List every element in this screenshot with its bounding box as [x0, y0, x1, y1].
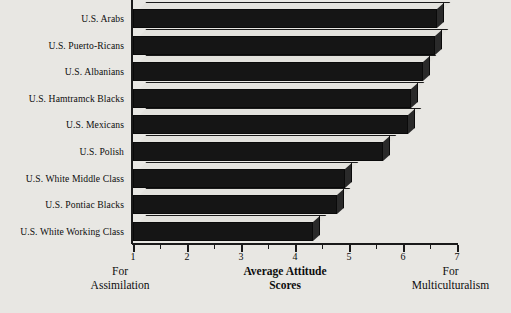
bar-front-face	[133, 169, 345, 188]
attitude-scores-bar-chart: U.S. ArabsU.S. Puerto-RicansU.S. Albania…	[0, 0, 511, 313]
axis-anchor-right-line1: For	[390, 264, 511, 278]
bar-side-face	[383, 136, 390, 161]
bar-side-face	[408, 109, 415, 134]
bar	[133, 2, 444, 21]
axis-anchor-left-line2: Assimilation	[60, 278, 180, 292]
axis-tick-label: 3	[239, 251, 244, 262]
axis-tick-label: 6	[401, 251, 406, 262]
bar-front-face	[133, 89, 411, 108]
bar-top-face	[140, 162, 359, 169]
axis-anchor-right-line2: Multiculturalism	[390, 278, 511, 292]
axis-tick-minor	[430, 245, 431, 249]
x-axis-title: Average Attitude Scores	[225, 264, 345, 292]
bar	[133, 188, 344, 207]
axis-anchor-left-line1: For	[60, 264, 180, 278]
category-label: U.S. Polish	[79, 146, 124, 157]
bar	[133, 82, 418, 101]
axis-anchor-left: For Assimilation	[60, 264, 180, 292]
bar	[133, 29, 442, 48]
plot-area: U.S. ArabsU.S. Puerto-RicansU.S. Albania…	[0, 0, 511, 313]
bar-front-face	[133, 9, 437, 28]
bar-front-face	[133, 222, 313, 241]
category-label: U.S. Arabs	[81, 13, 124, 24]
bar	[133, 135, 390, 154]
axis-tick-minor	[376, 245, 377, 249]
bar	[133, 55, 430, 74]
bar-top-face	[140, 55, 436, 62]
bar-side-face	[337, 189, 344, 214]
x-axis-title-line2: Scores	[225, 278, 345, 292]
bar-top-face	[140, 2, 450, 9]
bar-front-face	[133, 142, 383, 161]
axis-tick-label: 5	[347, 251, 352, 262]
bar	[133, 215, 320, 234]
bar	[133, 162, 352, 181]
category-label: U.S. Hamtramck Blacks	[29, 93, 124, 104]
bar-front-face	[133, 195, 337, 214]
bar-front-face	[133, 36, 435, 55]
axis-tick-label: 1	[131, 251, 136, 262]
axis-tick-label: 7	[455, 251, 460, 262]
bar	[133, 108, 415, 127]
bar-front-face	[133, 115, 408, 134]
bar-top-face	[140, 82, 424, 89]
category-label: U.S. Pontiac Blacks	[45, 199, 124, 210]
category-label: U.S. Albanians	[65, 66, 124, 77]
bar-side-face	[423, 56, 430, 81]
bar-front-face	[133, 62, 423, 81]
bar-top-face	[140, 215, 326, 222]
category-label: U.S. White Working Class	[20, 226, 124, 237]
axis-tick-minor	[214, 245, 215, 249]
axis-tick-minor	[322, 245, 323, 249]
bar-top-face	[140, 108, 421, 115]
x-axis-title-line1: Average Attitude	[225, 264, 345, 278]
bar-top-face	[140, 135, 396, 142]
axis-tick-label: 4	[293, 251, 298, 262]
category-label: U.S. Mexicans	[66, 119, 124, 130]
bar-top-face	[140, 29, 448, 36]
axis-tick-minor	[268, 245, 269, 249]
bar-side-face	[437, 3, 444, 28]
axis-tick-minor	[160, 245, 161, 249]
axis-anchor-right: For Multiculturalism	[390, 264, 511, 292]
axis-tick-label: 2	[185, 251, 190, 262]
bar-side-face	[345, 162, 352, 187]
bar-side-face	[411, 82, 418, 107]
bar-top-face	[140, 188, 350, 195]
category-label-column: U.S. ArabsU.S. Puerto-RicansU.S. Albania…	[0, 0, 128, 243]
category-label: U.S. Puerto-Ricans	[48, 40, 124, 51]
category-label: U.S. White Middle Class	[26, 173, 124, 184]
